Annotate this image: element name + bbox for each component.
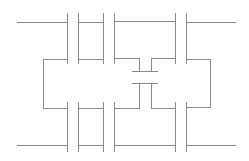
upper-wire-to-middle-left: [114, 59, 140, 72]
lower-wire-from-middle-left: [114, 84, 140, 109]
lower-inner-wires: [78, 84, 176, 109]
upper-inner-wires: [44, 59, 211, 109]
upper-wire-to-middle-right: [152, 59, 177, 72]
top-capacitors: [68, 13, 187, 64]
top-wires: [17, 22, 236, 23]
middle-capacitor: [132, 72, 158, 84]
left-rail-upper: [44, 60, 68, 109]
capacitor-circuit-diagram: [0, 0, 249, 161]
bottom-capacitors: [68, 102, 187, 152]
right-rail: [187, 60, 211, 108]
lower-wire-from-middle-right: [152, 84, 177, 109]
